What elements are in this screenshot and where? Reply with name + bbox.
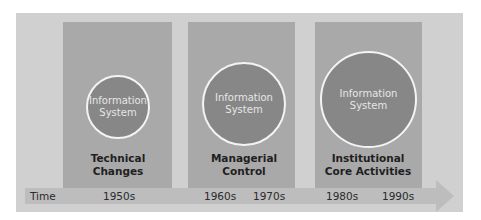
stage-label-institutional: Institutional Core Activities [298,152,438,178]
stage-label-technical: Technical Changes [48,152,188,178]
label-line1: Institutional [298,152,438,165]
label-line1: Managerial [174,152,314,165]
label-line2: Core Activities [298,165,438,178]
timeline-arrow-icon [436,180,454,212]
label-line2: Changes [48,165,188,178]
timeline-label: Time [30,189,56,203]
timeline-tick-1980s: 1980s [326,189,358,203]
label-line2: Control [174,165,314,178]
information-system-circle-large: Information System [320,51,417,148]
timeline-tick-1990s: 1990s [382,189,414,203]
label-line1: Technical [48,152,188,165]
circle-text-line2: System [225,104,262,116]
circle-text-line1: Information [340,88,398,100]
timeline-tick-1960s: 1960s [204,189,236,203]
timeline-tick-1950s: 1950s [103,189,135,203]
circle-text-line1: Information [89,95,147,107]
stage-label-managerial: Managerial Control [174,152,314,178]
circle-text-line2: System [99,107,136,119]
circle-text-line2: System [350,100,387,112]
information-system-circle-small: Information System [86,75,150,139]
circle-text-line1: Information [215,92,273,104]
timeline-tick-1970s: 1970s [253,189,285,203]
information-system-circle-medium: Information System [202,62,286,146]
